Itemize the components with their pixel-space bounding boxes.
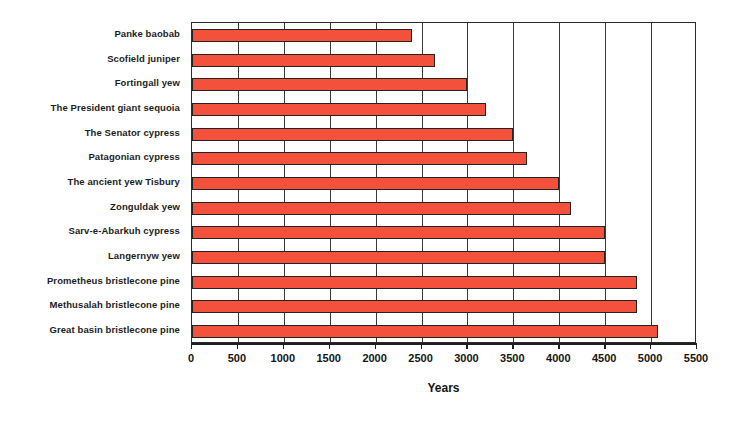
category-label: The President giant sequoia (0, 103, 186, 113)
x-axis-tick-label: 3000 (454, 352, 478, 364)
gridline (559, 23, 560, 342)
category-label: Prometheus bristlecone pine (0, 276, 186, 286)
category-label: Panke baobab (0, 29, 186, 39)
category-label: Fortingall yew (0, 78, 186, 88)
x-axis-tick (329, 343, 330, 349)
x-axis-tick (191, 343, 192, 349)
category-label: Zonguldak yew (0, 202, 186, 212)
x-axis-tick (283, 343, 284, 349)
bar (192, 78, 467, 91)
plot-area (191, 22, 696, 343)
x-axis-tick (512, 343, 513, 349)
x-axis-tick-label: 1500 (316, 352, 340, 364)
gridline (651, 23, 652, 342)
bar (192, 128, 513, 141)
bar (192, 251, 605, 264)
category-label: The ancient yew Tisbury (0, 177, 186, 187)
x-axis-tick-label: 500 (228, 352, 246, 364)
x-axis-title: Years (191, 381, 696, 395)
bar (192, 103, 486, 116)
x-axis-tick-label: 5500 (684, 352, 708, 364)
bar (192, 226, 605, 239)
x-axis-tick-label: 4000 (546, 352, 570, 364)
x-axis-tick (466, 343, 467, 349)
bar (192, 177, 559, 190)
x-axis-tick-label: 2000 (362, 352, 386, 364)
x-axis-tick (237, 343, 238, 349)
x-axis-tick (558, 343, 559, 349)
x-axis-tick (604, 343, 605, 349)
category-label: Scofield juniper (0, 54, 186, 64)
x-axis-tick-label: 2500 (408, 352, 432, 364)
x-axis-line (191, 343, 697, 345)
category-axis: Panke baobabScofield juniperFortingall y… (0, 22, 186, 343)
bar (192, 152, 527, 165)
bar (192, 300, 637, 313)
x-axis-tick-label: 0 (188, 352, 194, 364)
bar (192, 276, 637, 289)
x-axis-tick (421, 343, 422, 349)
category-label: Langernyw yew (0, 251, 186, 261)
category-label: Methusalah bristlecone pine (0, 300, 186, 310)
x-axis-tick (375, 343, 376, 349)
bar (192, 202, 571, 215)
bar (192, 54, 435, 67)
x-axis-tick-label: 5000 (638, 352, 662, 364)
bar-chart: Panke baobabScofield juniperFortingall y… (0, 0, 747, 423)
bar (192, 325, 658, 338)
category-label: Sarv-e-Abarkuh cypress (0, 226, 186, 236)
x-axis-tick (696, 343, 697, 349)
bar (192, 29, 412, 42)
category-label: The Senator cypress (0, 128, 186, 138)
category-label: Patagonian cypress (0, 152, 186, 162)
category-label: Great basin bristlecone pine (0, 325, 186, 335)
x-axis-tick-label: 4500 (592, 352, 616, 364)
x-axis-tick-label: 3500 (500, 352, 524, 364)
x-axis-tick (650, 343, 651, 349)
x-axis-tick-label: 1000 (271, 352, 295, 364)
gridline (605, 23, 606, 342)
